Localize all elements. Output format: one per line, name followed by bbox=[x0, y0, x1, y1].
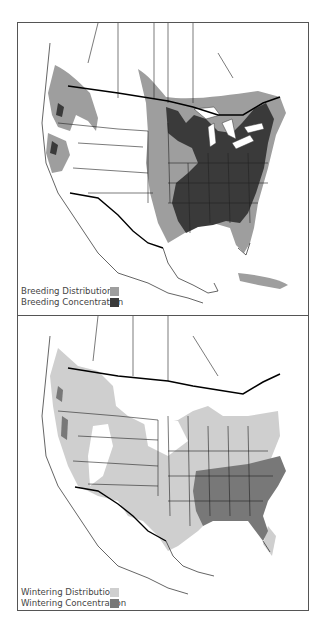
legend-label: Breeding Distribution bbox=[21, 286, 110, 297]
breeding-map-graphic bbox=[18, 23, 309, 316]
legend-label: Breeding Concentration bbox=[21, 297, 110, 308]
legend-label: Wintering Concentration bbox=[21, 598, 110, 609]
wintering-map-graphic bbox=[18, 316, 309, 611]
breeding-legend: Breeding Distribution Breeding Concentra… bbox=[21, 286, 119, 308]
legend-swatch bbox=[110, 298, 119, 307]
legend-item-wintering-concentration: Wintering Concentration bbox=[21, 598, 119, 609]
legend-swatch bbox=[110, 588, 119, 597]
wintering-map: Wintering Distribution Wintering Concent… bbox=[17, 315, 309, 611]
legend-swatch bbox=[110, 599, 119, 608]
legend-swatch bbox=[110, 287, 119, 296]
legend-item-wintering-distribution: Wintering Distribution bbox=[21, 587, 119, 598]
legend-item-breeding-distribution: Breeding Distribution bbox=[21, 286, 119, 297]
legend-item-breeding-concentration: Breeding Concentration bbox=[21, 297, 119, 308]
legend-label: Wintering Distribution bbox=[21, 587, 110, 598]
breeding-map: Breeding Distribution Breeding Concentra… bbox=[17, 22, 309, 316]
wintering-legend: Wintering Distribution Wintering Concent… bbox=[21, 587, 119, 609]
